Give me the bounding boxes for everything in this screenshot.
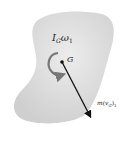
omega-symbol: ω — [61, 32, 69, 43]
center-of-mass-point — [60, 60, 64, 64]
mass-prefix: m( — [97, 99, 105, 106]
diagram-canvas — [0, 0, 132, 142]
outer-subscript: 1 — [114, 103, 117, 108]
linear-momentum-label: m(vG)1 — [97, 100, 117, 108]
angular-momentum-label: IGω1 — [52, 33, 73, 44]
omega-subscript: 1 — [69, 37, 73, 44]
center-of-mass-label: G — [67, 56, 73, 64]
